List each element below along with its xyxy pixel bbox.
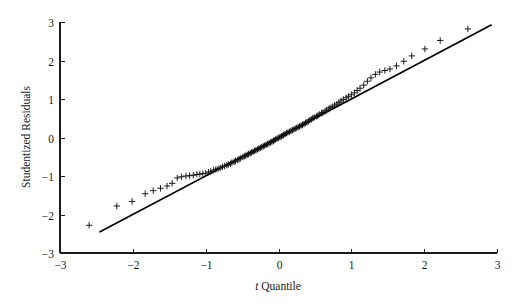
x-tick-label: 1	[349, 259, 355, 271]
y-tick-label: −3	[42, 248, 54, 260]
x-tick-label: 0	[277, 259, 283, 271]
y-tick-label: −2	[42, 210, 54, 222]
y-axis-title: Studentized Residuals	[20, 86, 32, 188]
y-tick-label: 0	[48, 133, 54, 145]
y-tick-label: 1	[48, 94, 54, 106]
qq-plot-figure: −3−2−10123−3−2−10123 t Quantile Studenti…	[0, 0, 532, 306]
x-tick-label: 3	[495, 259, 501, 271]
y-tick-label: 3	[48, 17, 54, 29]
x-tick-label: −1	[200, 259, 212, 271]
x-tick-label: 2	[422, 259, 428, 271]
x-tick-label: −2	[127, 259, 139, 271]
x-axis-title-rest: Quantile	[258, 280, 300, 292]
x-tick-label: −3	[54, 259, 66, 271]
y-tick-label: 2	[48, 56, 54, 68]
qq-plot-canvas: −3−2−10123−3−2−10123 t Quantile Studenti…	[0, 0, 532, 306]
x-axis-title: t Quantile	[255, 280, 301, 292]
y-tick-label: −1	[42, 171, 54, 183]
